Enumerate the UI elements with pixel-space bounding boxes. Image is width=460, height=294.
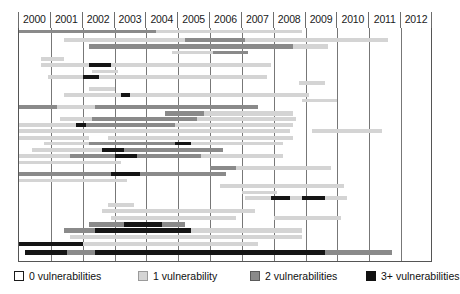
year-label-2009: 2009: [305, 12, 337, 28]
timeline-segment-level-3: [89, 63, 111, 67]
timeline-segment-level-1: [102, 209, 255, 213]
timeline-segment-level-1: [299, 81, 324, 85]
timeline-row: [19, 129, 431, 133]
timeline-segment-level-1: [19, 136, 89, 140]
timeline-segment-level-1: [92, 70, 117, 73]
timeline-segment-level-1: [111, 179, 127, 183]
legend-label: 0 vulnerabilities: [29, 270, 101, 282]
timeline-segment-level-1: [153, 242, 258, 246]
timeline-row: [19, 93, 431, 97]
timeline-segment-level-1: [191, 142, 283, 146]
timeline-segment-level-1: [19, 179, 111, 183]
year-label-2005: 2005: [177, 12, 209, 28]
timeline-row: [19, 209, 431, 213]
timeline-segment-level-1: [60, 117, 92, 121]
timeline-row: [19, 136, 431, 140]
timeline-segment-level-1: [32, 148, 102, 152]
timeline-segment-level-1: [64, 93, 121, 97]
timeline-row: [19, 148, 431, 152]
timeline-segment-level-1: [175, 123, 293, 127]
timeline-segment-level-1: [19, 154, 70, 158]
year-label-2000: 2000: [18, 12, 50, 28]
year-label-2003: 2003: [114, 12, 146, 28]
timeline-row: [19, 235, 431, 239]
timeline-segment-level-1: [41, 57, 63, 61]
timeline-segment-level-3: [102, 148, 124, 152]
timeline-row: [19, 228, 431, 233]
timeline-segment-level-2: [67, 250, 96, 255]
legend-item-level-2[interactable]: 2 vulnerabilities: [250, 268, 337, 284]
timeline-segment-level-1: [191, 228, 302, 233]
timeline-segment-level-1: [242, 191, 277, 195]
timeline-segment-level-2: [210, 166, 235, 170]
legend-swatch-level-0: [14, 271, 24, 281]
timeline-segment-level-1: [258, 184, 344, 188]
timeline-segment-level-1: [245, 38, 388, 42]
legend-item-level-3[interactable]: 3+ vulnerabilities: [366, 268, 460, 284]
timeline-segment-level-3: [111, 172, 140, 176]
timeline-row: [19, 216, 431, 220]
timeline-segment-level-3: [95, 250, 324, 255]
timeline-row: [19, 63, 431, 67]
timeline-segment-level-1: [89, 87, 114, 92]
year-label-2011: 2011: [368, 12, 400, 28]
timeline-row: [19, 184, 431, 188]
timeline-segment-level-2: [89, 44, 293, 49]
timeline-row: [19, 81, 431, 85]
timeline-row: [19, 179, 431, 183]
timeline-row: [19, 30, 431, 33]
timeline-segment-level-2: [92, 117, 197, 121]
timeline-row: [19, 51, 431, 55]
timeline-segment-level-1: [201, 154, 284, 158]
legend-label: 2 vulnerabilities: [265, 270, 337, 282]
year-label-2004: 2004: [145, 12, 177, 28]
timeline-row: [19, 222, 431, 227]
year-label-2010: 2010: [336, 12, 368, 28]
legend-label: 1 vulnerability: [153, 270, 217, 282]
timeline-row: [19, 87, 431, 92]
timeline-segment-level-3: [302, 196, 324, 200]
timeline-row: [19, 191, 431, 195]
timeline-segment-level-2: [162, 222, 184, 227]
timeline-row: [19, 117, 431, 121]
timeline-segment-level-3: [175, 142, 191, 146]
timeline-row: [19, 105, 431, 109]
timeline-segment-level-1: [64, 38, 185, 42]
timeline-segment-level-2: [137, 154, 201, 158]
timeline-segment-level-2: [140, 172, 226, 176]
timeline-row: [19, 250, 431, 255]
legend-item-level-1[interactable]: 1 vulnerability: [138, 268, 217, 284]
timeline-row: [19, 38, 431, 42]
legend-swatch-level-3: [366, 271, 376, 281]
timeline-segment-level-1: [83, 242, 153, 246]
timeline-row: [19, 99, 431, 102]
timeline-segment-level-1: [245, 196, 270, 200]
timeline-segment-level-2: [325, 250, 392, 255]
timeline-segment-level-1: [108, 136, 127, 140]
timeline-row: [19, 111, 431, 116]
timeline-segment-level-2: [19, 30, 156, 33]
timeline-segment-level-2: [64, 228, 96, 233]
timeline-segment-level-2: [70, 154, 115, 158]
timeline-segment-level-1: [48, 75, 83, 79]
year-label-2012: 2012: [400, 12, 432, 28]
legend-item-level-0[interactable]: 0 vulnerabilities: [14, 268, 101, 284]
timeline-segment-level-1: [156, 30, 302, 33]
timeline-segment-level-1: [302, 99, 337, 102]
timeline-segment-level-3: [121, 93, 131, 97]
timeline-segment-level-2: [19, 172, 111, 176]
timeline-segment-level-1: [44, 142, 89, 146]
timeline-segment-level-1: [57, 105, 95, 109]
year-label-2002: 2002: [82, 12, 114, 28]
chart-legend: 0 vulnerabilities1 vulnerability2 vulner…: [14, 268, 438, 286]
timeline-row: [19, 154, 431, 158]
timeline-segment-level-2: [19, 105, 57, 109]
timeline-row: [19, 70, 431, 73]
timeline-segment-level-1: [92, 161, 121, 165]
timeline-segment-level-2: [89, 142, 175, 146]
timeline-segment-level-1: [111, 63, 270, 67]
year-label-2008: 2008: [273, 12, 305, 28]
year-label-2006: 2006: [209, 12, 241, 28]
timeline-segment-level-2: [165, 111, 203, 116]
